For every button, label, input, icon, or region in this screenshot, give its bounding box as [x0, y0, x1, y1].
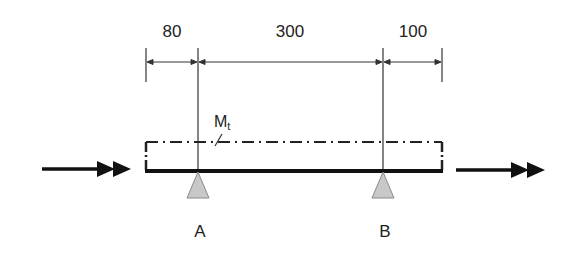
torque-label-sub: t	[227, 120, 230, 132]
support-label-b: B	[379, 223, 390, 240]
torque-label: Mt	[214, 114, 230, 132]
dimension-label-left: 80	[163, 23, 182, 40]
input-arrow-icon	[42, 161, 131, 177]
support-label-a: A	[194, 223, 205, 240]
dimension-lines	[147, 60, 441, 65]
torque-label-main: M	[214, 113, 227, 130]
support-a-icon	[187, 172, 209, 198]
torque-leader-line	[215, 134, 222, 146]
support-b-icon	[372, 172, 394, 198]
output-arrow-icon	[456, 162, 545, 178]
dimension-label-middle: 300	[276, 23, 304, 40]
dimension-label-right: 100	[399, 23, 427, 40]
